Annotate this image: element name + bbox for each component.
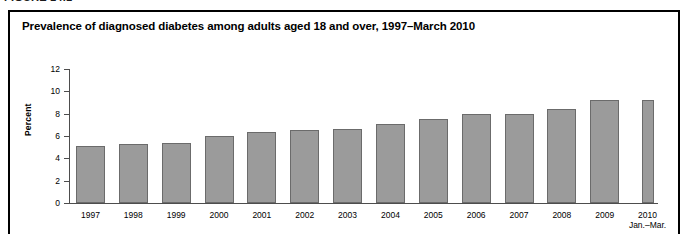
bar-2005 (419, 119, 448, 203)
y-tick-label-0: 0 (34, 199, 60, 207)
x-tick-sublabel-2010: Jan.–Mar. (618, 220, 678, 230)
bar-2010 (642, 100, 654, 203)
bar-2008 (547, 109, 576, 203)
y-tick-label-2: 2 (34, 177, 60, 185)
bar-2004 (376, 124, 405, 203)
y-tick-2 (64, 181, 70, 182)
y-tick-label-10: 10 (34, 87, 60, 95)
bar-2003 (333, 129, 362, 203)
y-tick-12 (64, 69, 70, 70)
y-tick-10 (64, 91, 70, 92)
bar-2001 (247, 132, 276, 203)
bar-2002 (290, 130, 319, 203)
bar-1998 (119, 144, 148, 203)
plot-area: Percent 024681012 1997199819992000200120… (10, 12, 682, 234)
figure-container: Prevalence of diagnosed diabetes among a… (8, 10, 680, 234)
bar-2006 (462, 114, 491, 203)
y-tick-8 (64, 114, 70, 115)
x-tick-label-2010: 2010Jan.–Mar. (618, 210, 678, 230)
y-tick-label-12: 12 (34, 65, 60, 73)
bar-1999 (162, 143, 191, 203)
y-tick-6 (64, 136, 70, 137)
bar-2009 (590, 100, 619, 203)
bar-2000 (205, 136, 234, 203)
y-tick-label-4: 4 (34, 154, 60, 162)
x-axis-line (69, 203, 658, 204)
figure-number-label: FIGURE 14.1 (4, 0, 72, 3)
y-tick-4 (64, 158, 70, 159)
bar-2007 (505, 114, 534, 203)
y-axis-label: Percent (23, 103, 33, 136)
y-tick-label-6: 6 (34, 132, 60, 140)
bar-1997 (76, 146, 105, 203)
y-tick-label-8: 8 (34, 110, 60, 118)
y-tick-0 (64, 203, 70, 204)
